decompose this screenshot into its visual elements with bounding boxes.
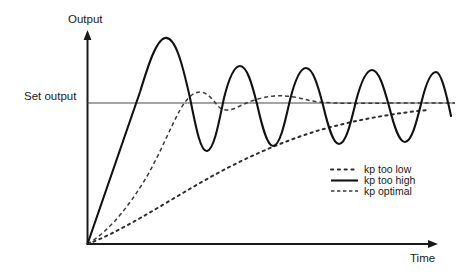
set-output-label: Set output [24,90,77,102]
pid-response-chart: Output Time Set output kp too low kp too… [0,0,469,275]
x-axis-label: Time [410,252,435,264]
legend-label-kp-optimal: kp optimal [364,185,412,197]
y-axis-label: Output [68,13,103,25]
